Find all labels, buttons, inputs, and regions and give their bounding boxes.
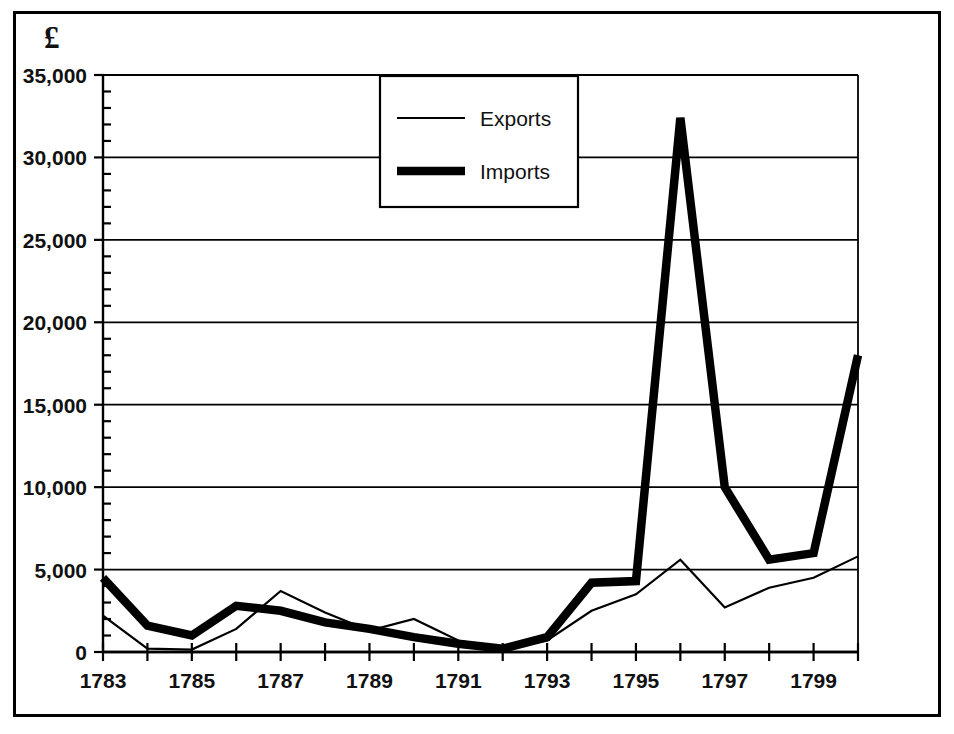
chart-page: £ 05,00010,00015,00020,00025,00030,00035… — [0, 0, 954, 734]
y-tick-label-10000: 10,000 — [23, 476, 87, 499]
plot-area: 05,00010,00015,00020,00025,00030,00035,0… — [0, 0, 954, 734]
x-tick-label-1787: 1787 — [257, 669, 304, 692]
x-tick-label-1789: 1789 — [346, 669, 393, 692]
y-tick-label-0: 0 — [75, 641, 87, 664]
x-tick-label-1783: 1783 — [80, 669, 127, 692]
x-axis-tick-labels: 178317851787178917911793179517971799 — [80, 669, 837, 692]
x-tick-label-1799: 1799 — [790, 669, 837, 692]
y-axis-tick-labels: 05,00010,00015,00020,00025,00030,00035,0… — [23, 64, 87, 664]
y-tick-label-30000: 30,000 — [23, 146, 87, 169]
line-chart: 05,00010,00015,00020,00025,00030,00035,0… — [0, 0, 954, 734]
y-tick-label-25000: 25,000 — [23, 229, 87, 252]
y-tick-label-15000: 15,000 — [23, 394, 87, 417]
y-tick-label-35000: 35,000 — [23, 64, 87, 87]
x-tick-label-1791: 1791 — [435, 669, 482, 692]
x-tick-label-1795: 1795 — [613, 669, 660, 692]
legend-box — [380, 76, 578, 207]
x-tick-label-1797: 1797 — [701, 669, 748, 692]
y-tick-label-20000: 20,000 — [23, 311, 87, 334]
x-tick-label-1785: 1785 — [168, 669, 215, 692]
legend-label-exports: Exports — [480, 107, 551, 130]
chart-legend: ExportsImports — [380, 76, 578, 207]
x-tick-label-1793: 1793 — [524, 669, 571, 692]
y-tick-label-5000: 5,000 — [34, 559, 87, 582]
legend-label-imports: Imports — [480, 160, 550, 183]
